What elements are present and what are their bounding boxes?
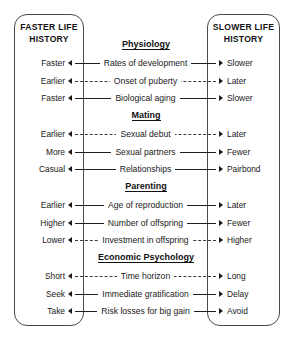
trait-connector-line: Immediate gratification (75, 288, 216, 300)
arrow-left-icon (68, 219, 75, 226)
arrow-left-icon (68, 130, 75, 137)
arrow-left-icon (68, 59, 75, 66)
arrow-left-icon (68, 148, 75, 155)
trait-row: EarlierSexual debutLater (16, 126, 277, 141)
slower-pole-value: Slower (223, 93, 277, 103)
trait-label: Risk losses for big gain (97, 306, 193, 316)
arrow-right-icon (216, 290, 223, 297)
arrow-left-icon (68, 272, 75, 279)
faster-pole-value: Earlier (16, 129, 68, 139)
faster-pole-value: Higher (16, 218, 68, 228)
faster-pole-value: Earlier (16, 200, 68, 210)
slower-pole-value: Fewer (223, 218, 277, 228)
trait-connector-line: Number of offspring (75, 217, 216, 229)
trait-label: Time horizon (117, 271, 174, 281)
trait-connector-line: Risk losses for big gain (75, 305, 216, 317)
trait-connector-line: Biological aging (75, 92, 216, 104)
trait-connector-line: Time horizon (75, 270, 216, 282)
faster-pole-value: Take (16, 306, 68, 316)
slower-pole-value: Delay (223, 289, 277, 299)
trait-label: Sexual partners (111, 147, 179, 157)
trait-label: Rates of development (100, 58, 192, 68)
trait-row: FasterRates of developmentSlower (16, 55, 277, 70)
arrow-right-icon (216, 219, 223, 226)
trait-label: Immediate gratification (98, 289, 192, 299)
trait-label: Biological aging (111, 93, 179, 103)
trait-connector-line: Age of reproduction (75, 199, 216, 211)
trait-label: Investment in offspring (98, 235, 192, 245)
section-header-parenting: Parenting (84, 181, 208, 191)
arrow-right-icon (216, 148, 223, 155)
trait-row: SeekImmediate gratificationDelay (16, 286, 277, 301)
section-header-economic-psychology: Economic Psychology (84, 252, 208, 262)
arrow-right-icon (216, 201, 223, 208)
arrow-left-icon (68, 290, 75, 297)
trait-label: Onset of puberty (110, 76, 182, 86)
trait-row: CasualRelationshipsPairbond (16, 161, 277, 176)
trait-label: Number of offspring (104, 218, 187, 228)
arrow-left-icon (68, 94, 75, 101)
arrow-right-icon (216, 307, 223, 314)
slower-pole-value: Later (223, 200, 277, 210)
trait-row: MoreSexual partnersFewer (16, 144, 277, 159)
slower-pole-value: Later (223, 129, 277, 139)
trait-row: HigherNumber of offspringFewer (16, 215, 277, 230)
section-header-mating: Mating (84, 110, 208, 120)
arrow-right-icon (216, 272, 223, 279)
slower-pole-value: Later (223, 76, 277, 86)
arrow-right-icon (216, 236, 223, 243)
slower-pole-value: Higher (223, 235, 277, 245)
slower-pole-value: Long (223, 271, 277, 281)
trait-connector-line: Rates of development (75, 57, 216, 69)
trait-connector-line: Sexual partners (75, 146, 216, 158)
arrow-right-icon (216, 94, 223, 101)
trait-row: EarlierOnset of pubertyLater (16, 73, 277, 88)
trait-connector-line: Relationships (75, 163, 216, 175)
trait-label: Sexual debut (116, 129, 174, 139)
trait-row: TakeRisk losses for big gainAvoid (16, 303, 277, 318)
arrow-right-icon (216, 59, 223, 66)
trait-connector-line: Onset of puberty (75, 75, 216, 87)
slower-pole-value: Pairbond (223, 164, 277, 174)
arrow-right-icon (216, 130, 223, 137)
arrow-left-icon (68, 165, 75, 172)
faster-pole-value: Casual (16, 164, 68, 174)
trait-row: LowerInvestment in offspringHigher (16, 232, 277, 247)
diagram-content: PhysiologyFasterRates of developmentSlow… (0, 0, 293, 342)
arrow-left-icon (68, 236, 75, 243)
slower-pole-value: Fewer (223, 147, 277, 157)
trait-row: EarlierAge of reproductionLater (16, 197, 277, 212)
arrow-right-icon (216, 165, 223, 172)
section-header-label: Mating (132, 110, 161, 121)
section-header-label: Economic Psychology (98, 252, 194, 263)
trait-row: ShortTime horizonLong (16, 268, 277, 283)
trait-row: FasterBiological agingSlower (16, 90, 277, 105)
section-header-label: Parenting (125, 181, 167, 192)
arrow-left-icon (68, 77, 75, 84)
faster-pole-value: Short (16, 271, 68, 281)
trait-label: Age of reproduction (104, 200, 187, 210)
faster-pole-value: More (16, 147, 68, 157)
faster-pole-value: Faster (16, 93, 68, 103)
arrow-left-icon (68, 201, 75, 208)
faster-pole-value: Earlier (16, 76, 68, 86)
faster-pole-value: Seek (16, 289, 68, 299)
section-header-label: Physiology (122, 39, 170, 50)
slower-pole-value: Avoid (223, 306, 277, 316)
trait-connector-line: Sexual debut (75, 128, 216, 140)
trait-label: Relationships (116, 164, 176, 174)
faster-pole-value: Lower (16, 235, 68, 245)
life-history-strategy-diagram: FASTER LIFE HISTORY SLOWER LIFE HISTORY … (0, 0, 293, 342)
section-header-physiology: Physiology (84, 39, 208, 49)
arrow-left-icon (68, 307, 75, 314)
slower-pole-value: Slower (223, 58, 277, 68)
arrow-right-icon (216, 77, 223, 84)
trait-connector-line: Investment in offspring (75, 234, 216, 246)
faster-pole-value: Faster (16, 58, 68, 68)
